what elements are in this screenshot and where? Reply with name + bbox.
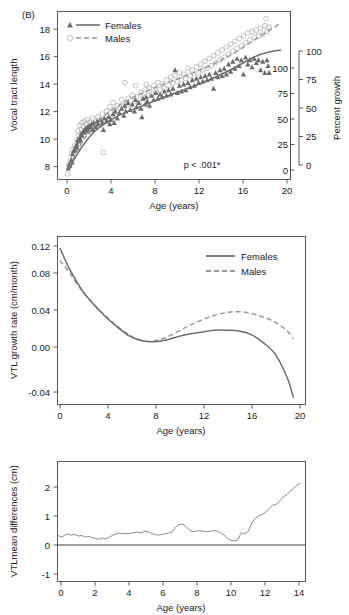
panel2-ytick-012: 0.12 [32,241,51,252]
scatter-point-male [228,42,233,47]
scatter-point-female [245,62,250,67]
scatter-point-female [207,72,212,77]
panel1-right-outer-25: 25 [306,131,317,142]
scatter-point-female [230,59,235,64]
panel1-x-tickmarks [67,180,287,184]
scatter-point-male [144,82,149,87]
panel3-ylabel: VTLmean differences (cm) [8,465,19,577]
scatter-point-male [119,97,124,102]
scatter-point-female [239,57,244,62]
scatter-point-male [133,83,138,88]
panel1-right-inner-tickmarks [291,68,295,170]
panel1-right-outer-0: 0 [306,160,311,171]
panel1-legend-item-females: Females [67,20,142,31]
panel3-ytick-2: 2 [45,482,50,493]
panel1-p-value-annotation: p < .001* [184,160,221,170]
panel2-xtick-16: 16 [247,410,258,421]
panel1-xtick-8: 8 [152,185,157,196]
panel3-ytick-0: 0 [45,540,50,551]
panel1-xtick-16: 16 [238,185,249,196]
scatter-point-female [222,66,227,71]
panel1-right-inner-0: 0 [283,165,288,176]
scatter-point-male [100,112,105,117]
scatter-point-female [213,70,218,75]
panel1-fit-males [69,23,281,168]
panel1-legend-item-males: Males [67,33,130,44]
panel3-ytick-1: 1 [45,511,50,522]
panel1-ytick-8: 8 [45,161,50,172]
panel3-x-axis: 0 2 4 6 8 10 12 14 Age (years) [58,582,304,614]
panel3-plot-frame [58,462,306,582]
panel1-ytick-12: 12 [39,106,50,117]
scatter-point-male [122,80,127,85]
panel1-right-outer-axis: 0 25 50 75 100 Percent growth [299,46,342,171]
panel2-legend-label-males: Males [241,266,267,277]
panel-label-b: (B) [22,9,35,20]
panel1-xtick-12: 12 [194,185,205,196]
panel1-ytick-18: 18 [39,24,50,35]
panel2-ytick-000: 0.00 [32,342,51,353]
panel3-xlabel: Age (years) [156,602,205,613]
panel1-right-inner-25: 25 [277,139,288,150]
panel1-right-outer-100: 100 [306,46,322,57]
open-circle-icon [67,35,72,40]
panel1-ytick-10: 10 [39,134,50,145]
panel1-ytick-14: 14 [39,79,50,90]
panel-2-growth-rate: -0.04 0.00 0.04 0.08 0.12 VTL growth rat… [8,237,306,437]
scatter-point-female [265,63,270,68]
panel1-right-inner-50: 50 [277,114,288,125]
panel2-xlabel: Age (years) [156,425,205,436]
panel1-ylabel: Vocal tract length [8,59,19,132]
panel1-right-inner-axis: 0 25 50 75 100 [272,12,294,180]
scatter-point-female [262,70,267,75]
panel2-plot-frame [58,237,306,405]
panel2-xtick-4: 4 [105,410,110,421]
scatter-point-male [264,16,269,21]
scatter-point-female [139,114,144,119]
scatter-point-female [249,64,254,69]
panel2-xtick-8: 8 [153,410,158,421]
panel2-left-axis: -0.04 0.00 0.04 0.08 0.12 VTL growth rat… [8,241,58,398]
scatter-point-male [164,77,169,82]
panel2-legend-item-females: Females [206,251,278,262]
panel2-x-axis: 0 4 8 12 16 20 Age (years) [57,405,305,437]
scatter-point-female [267,70,272,75]
panel3-xtick-2: 2 [92,587,97,598]
scatter-point-male [237,36,242,41]
scatter-point-male [194,65,199,70]
scatter-point-female [194,76,199,81]
panel2-legend: Females Males [206,251,278,277]
panel1-right-outer-50: 50 [306,103,317,114]
scatter-point-female [264,57,269,62]
scatter-point-female [217,67,222,72]
panel1-legend: Females Males [67,20,142,44]
scatter-point-female [202,73,207,78]
panel2-ytick-008: 0.08 [32,268,51,279]
scatter-point-male [215,50,220,55]
scatter-point-male [235,46,240,51]
panel3-xtick-4: 4 [126,587,131,598]
panel1-legend-label-males: Males [105,33,131,44]
scatter-point-male [247,38,252,43]
scatter-point-male [198,62,203,67]
scatter-point-female [234,56,239,61]
panel2-x-tickmarks [60,405,300,409]
scatter-point-male [224,45,229,50]
filled-triangle-icon [67,22,73,28]
scatter-point-female [241,72,246,77]
scatter-point-female [172,67,177,72]
panel-1-vocal-tract-length: (B) 8 10 12 14 16 18 Vocal tract length [8,9,342,211]
scatter-point-male [207,56,212,61]
scatter-point-male [190,67,195,72]
panel2-legend-item-males: Males [206,266,267,277]
panel3-xtick-10: 10 [226,587,237,598]
panel1-legend-label-females: Females [105,20,142,31]
panel1-xtick-0: 0 [64,185,69,196]
panel2-legend-label-females: Females [241,251,278,262]
figure-panel-b: (B) 8 10 12 14 16 18 Vocal tract length [0,0,349,615]
panel1-xtick-20: 20 [282,185,293,196]
panel2-xtick-20: 20 [295,410,306,421]
panel1-ytick-16: 16 [39,51,50,62]
panel3-xtick-6: 6 [160,587,165,598]
panel1-right-outer-75: 75 [306,74,317,85]
